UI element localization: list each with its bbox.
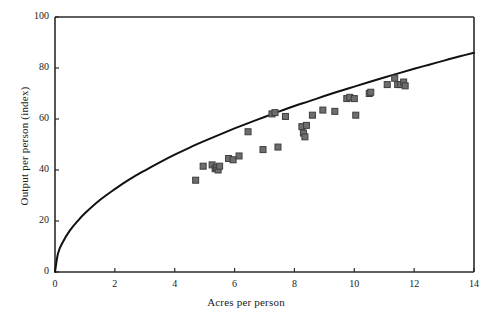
data-point <box>272 110 278 116</box>
y-tick-label: 20 <box>19 214 49 225</box>
x-tick-label: 10 <box>334 278 374 289</box>
data-point <box>353 112 359 118</box>
data-point <box>368 89 374 95</box>
x-tick-label: 4 <box>155 278 195 289</box>
plot-frame <box>55 17 474 272</box>
x-tick-label: 12 <box>394 278 434 289</box>
x-tick-label: 0 <box>35 278 75 289</box>
data-point <box>217 163 223 169</box>
axis-ticks <box>55 17 474 272</box>
y-tick-label: 40 <box>19 163 49 174</box>
x-axis-label: Acres per person <box>0 296 492 308</box>
x-tick-label: 14 <box>454 278 492 289</box>
data-point <box>384 82 390 88</box>
data-point <box>200 163 206 169</box>
data-point <box>320 107 326 113</box>
data-point <box>193 177 199 183</box>
x-tick-label: 8 <box>274 278 314 289</box>
x-tick-label: 6 <box>215 278 255 289</box>
data-point <box>236 153 242 159</box>
data-point <box>351 96 357 102</box>
data-point <box>230 157 236 163</box>
data-point <box>303 122 309 128</box>
chart-figure: Output per person (index) Acres per pers… <box>0 0 492 327</box>
data-point <box>392 75 398 81</box>
data-point <box>245 129 251 135</box>
data-point <box>309 112 315 118</box>
x-tick-label: 2 <box>95 278 135 289</box>
data-point <box>275 144 281 150</box>
data-point <box>260 147 266 153</box>
fitted-curve <box>55 53 474 272</box>
data-point <box>302 134 308 140</box>
y-tick-label: 0 <box>19 265 49 276</box>
data-point <box>282 113 288 119</box>
data-point-group <box>193 75 409 183</box>
y-tick-label: 80 <box>19 61 49 72</box>
data-point <box>402 83 408 89</box>
y-tick-label: 60 <box>19 112 49 123</box>
y-tick-label: 100 <box>19 10 49 21</box>
data-point <box>332 108 338 114</box>
